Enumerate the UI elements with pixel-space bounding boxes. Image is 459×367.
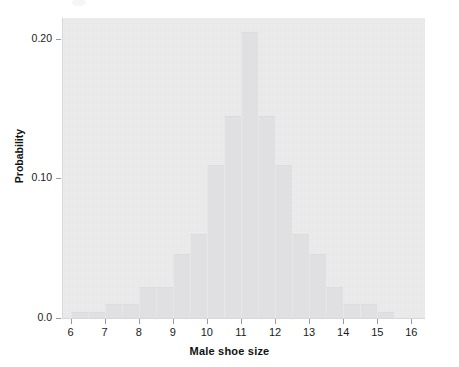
bar-series-layer xyxy=(62,18,425,318)
histogram-bar xyxy=(241,32,258,318)
histogram-bar xyxy=(360,304,377,318)
histogram-bar xyxy=(190,234,207,318)
x-tick-mark xyxy=(309,319,310,324)
x-tick-mark xyxy=(377,319,378,324)
x-tick-mark xyxy=(139,319,140,324)
histogram-bar xyxy=(105,304,122,318)
histogram-bar xyxy=(173,254,190,318)
page-artifact-mark xyxy=(72,0,86,6)
plot-area xyxy=(62,18,425,318)
y-tick-mark xyxy=(56,318,61,319)
x-tick-label: 6 xyxy=(56,326,86,338)
x-tick-label: 10 xyxy=(192,326,222,338)
histogram-bar xyxy=(326,287,343,318)
x-tick-mark xyxy=(275,319,276,324)
y-tick-mark xyxy=(56,39,61,40)
x-tick-mark xyxy=(411,319,412,324)
x-tick-label: 8 xyxy=(124,326,154,338)
histogram-bar xyxy=(309,254,326,318)
histogram-bar xyxy=(258,116,275,318)
y-tick-mark xyxy=(56,178,61,179)
x-tick-label: 7 xyxy=(90,326,120,338)
y-tick-label: 0.0 xyxy=(12,311,52,323)
x-tick-label: 12 xyxy=(260,326,290,338)
x-tick-mark xyxy=(173,319,174,324)
histogram-bar xyxy=(156,287,173,318)
x-tick-label: 14 xyxy=(328,326,358,338)
x-tick-label: 13 xyxy=(294,326,324,338)
x-tick-mark xyxy=(207,319,208,324)
x-tick-mark xyxy=(343,319,344,324)
y-axis-title: Probability xyxy=(13,106,25,206)
x-tick-label: 16 xyxy=(396,326,426,338)
x-axis-title: Male shoe size xyxy=(0,345,459,357)
x-tick-label: 15 xyxy=(362,326,392,338)
x-tick-mark xyxy=(71,319,72,324)
x-tick-mark xyxy=(105,319,106,324)
histogram-bar xyxy=(139,287,156,318)
shoe-size-histogram-chart: 678910111213141516 0.00.100.20 Male shoe… xyxy=(0,0,459,367)
histogram-bar xyxy=(122,304,139,318)
x-tick-mark xyxy=(241,319,242,324)
y-axis-line xyxy=(62,18,63,318)
x-tick-label: 11 xyxy=(226,326,256,338)
histogram-bar xyxy=(224,116,241,318)
histogram-bar xyxy=(343,304,360,318)
histogram-bar xyxy=(275,165,292,318)
x-tick-label: 9 xyxy=(158,326,188,338)
histogram-bar xyxy=(292,234,309,318)
x-axis-line xyxy=(62,318,425,319)
y-tick-label: 0.20 xyxy=(12,32,52,44)
histogram-bar xyxy=(207,165,224,318)
